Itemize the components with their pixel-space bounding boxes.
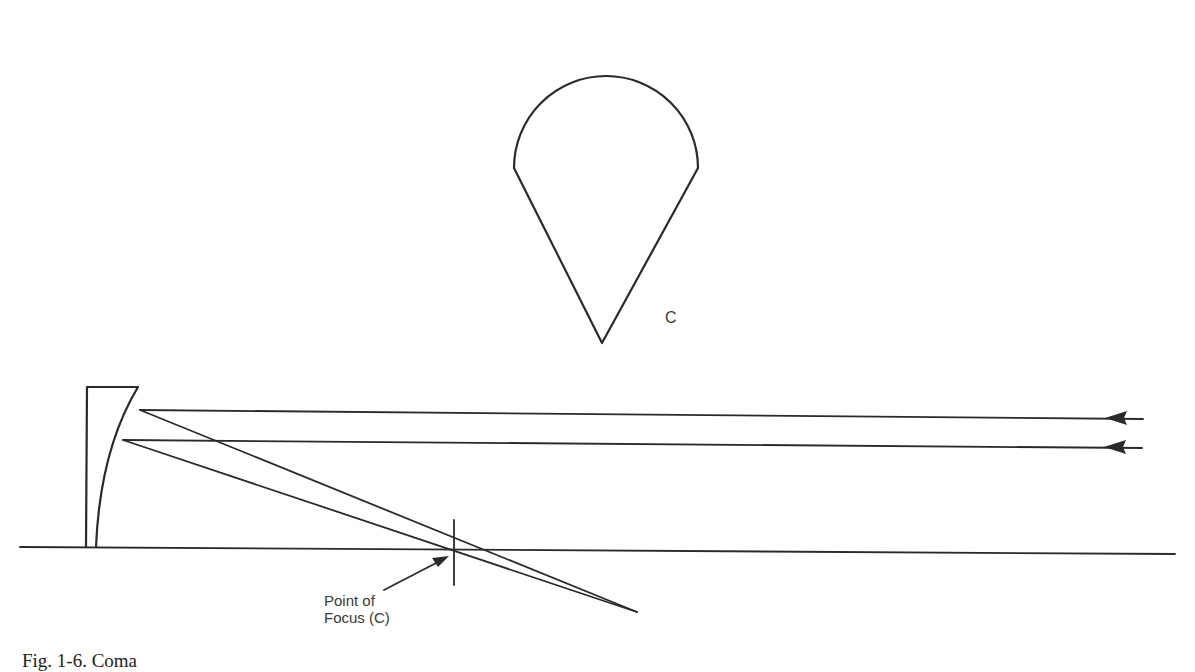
reflected-ray-upper — [140, 410, 637, 612]
arrowhead-icon — [1104, 440, 1126, 454]
coma-label: C — [665, 309, 677, 326]
arrowhead-icon — [1105, 411, 1127, 425]
focus-pointer-arrowhead-icon — [432, 556, 449, 567]
figure-caption: Fig. 1-6. Coma — [22, 650, 137, 672]
focus-label: Point of Focus (C) — [324, 592, 390, 626]
incoming-ray-lower — [123, 440, 1142, 448]
focus-pointer-line — [384, 561, 440, 590]
focus-label-line1: Point of — [324, 592, 390, 609]
coma-teardrop-shape — [514, 76, 698, 343]
mirror-profile — [86, 387, 138, 547]
incoming-ray-upper — [140, 410, 1143, 419]
focus-label-line2: Focus (C) — [324, 609, 390, 626]
reflected-ray-lower — [123, 440, 637, 612]
optical-axis-line — [20, 547, 1175, 554]
